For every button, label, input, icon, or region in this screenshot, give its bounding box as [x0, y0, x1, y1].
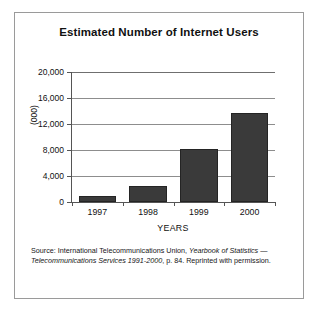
- source-note-tail: , p. 84. Reprinted with permission.: [162, 256, 271, 265]
- y-axis-tick-label: 4,000: [43, 171, 64, 181]
- y-axis-tick-label: 16,000: [38, 93, 64, 103]
- bar-1999: [180, 149, 218, 202]
- bars-layer: [72, 72, 275, 202]
- x-axis-tick-label: 1999: [189, 207, 209, 217]
- bar-1997: [79, 196, 117, 202]
- x-axis-tick-label: 1997: [88, 207, 108, 217]
- x-axis-title: YEARS: [71, 223, 275, 233]
- bar-2000: [231, 113, 269, 202]
- x-axis-tick-mark: [174, 202, 175, 206]
- x-axis-tick-label: 2000: [240, 207, 260, 217]
- x-axis-tick-mark: [72, 202, 73, 206]
- source-note-italic-title: Yearbook of Statistics: [189, 246, 258, 255]
- y-axis-tick-label: 0: [59, 197, 64, 207]
- source-note: Source: International Telecommunications…: [31, 246, 289, 267]
- x-axis-tick-mark: [224, 202, 225, 206]
- bar-1998: [129, 186, 167, 202]
- x-axis-tick-mark: [123, 202, 124, 206]
- figure-frame: Estimated Number of Internet Users (000)…: [14, 12, 304, 299]
- y-axis-tick-label: 12,000: [38, 119, 64, 129]
- source-note-lead: Source: International Telecommunications…: [31, 246, 189, 255]
- x-axis-tick-mark: [275, 202, 276, 206]
- plot-area: 04,0008,00012,00016,00020,000 1997199819…: [71, 72, 275, 203]
- y-axis-tick-label: 20,000: [38, 67, 64, 77]
- y-axis-tick-label: 8,000: [43, 145, 64, 155]
- x-axis-tick-label: 1998: [138, 207, 158, 217]
